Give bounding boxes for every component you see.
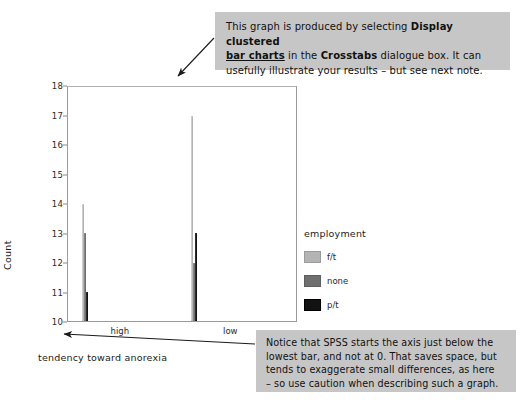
x-tick-label-low: low [223, 326, 238, 336]
plot-area [67, 86, 297, 322]
legend-swatch-none-icon [304, 275, 321, 287]
y-tick-label-18: 18 [52, 81, 63, 91]
y-tick-label-15: 15 [52, 170, 63, 180]
note-bottom-line4: – so use caution when describing such a … [266, 378, 498, 389]
top-note-arrow [178, 38, 214, 76]
note-top-line1-a: This graph is produced by selecting [226, 21, 411, 32]
bar-group-low [191, 87, 197, 321]
bar-high-pt[interactable] [86, 292, 88, 321]
x-axis-title: tendency toward anorexia [38, 352, 167, 363]
legend-swatch-ft-icon [304, 251, 321, 263]
legend-label-pt: p/t [327, 300, 339, 310]
bars-container [68, 87, 296, 321]
legend-item-none[interactable]: none [304, 274, 394, 287]
legend: employment f/t none p/t [304, 228, 394, 322]
note-bottom-line2: lowest bar, and not at 0. That saves spa… [266, 351, 497, 362]
note-top-line3: usefully illustrate your results – but s… [226, 65, 483, 76]
y-axis-title: Count [2, 240, 13, 270]
note-top-line2-crosstabs: Crosstabs [321, 50, 378, 61]
note-bottom: Notice that SPSS starts the axis just be… [256, 330, 516, 392]
y-tick-label-11: 11 [52, 288, 63, 298]
bar-group-high [82, 87, 88, 321]
note-top: This graph is produced by selecting Disp… [215, 12, 510, 70]
note-top-line2-d: dialogue box. It can [377, 50, 481, 61]
y-axis-ticks: 18 17 16 15 14 13 12 11 10 [0, 86, 67, 322]
y-tick-label-17: 17 [52, 111, 63, 121]
legend-label-ft: f/t [327, 252, 336, 262]
y-tick-label-10: 10 [52, 317, 63, 327]
y-tick-label-13: 13 [52, 229, 63, 239]
note-bottom-line1: Notice that SPSS starts the axis just be… [266, 337, 493, 348]
note-top-line2-bold: bar charts [226, 50, 285, 61]
y-tick-label-12: 12 [52, 258, 63, 268]
x-tick-label-high: high [111, 326, 130, 336]
legend-item-pt[interactable]: p/t [304, 298, 394, 311]
legend-label-none: none [327, 276, 348, 286]
y-tick-label-14: 14 [52, 199, 63, 209]
legend-title: employment [304, 228, 394, 239]
y-tick-label-16: 16 [52, 140, 63, 150]
bar-low-pt[interactable] [195, 233, 197, 321]
note-bottom-line3: tends to exaggerate small differences, a… [266, 364, 495, 375]
legend-swatch-pt-icon [304, 299, 321, 311]
legend-item-ft[interactable]: f/t [304, 250, 394, 263]
note-top-line2-b: in the [285, 50, 321, 61]
